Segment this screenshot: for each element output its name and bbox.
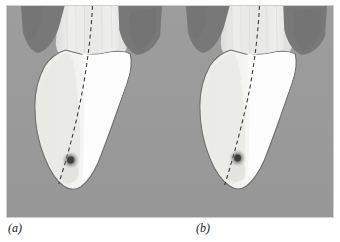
caption-panel-b: (b) — [196, 221, 210, 236]
figure-container: (a) (b) — [0, 0, 340, 242]
caption-row: (a) (b) — [0, 218, 340, 242]
panel-a-focal-spot-core — [67, 157, 74, 164]
panel-a[interactable] — [7, 6, 170, 217]
panel-b-graphic — [170, 6, 333, 217]
panel-pair — [6, 5, 334, 218]
caption-panel-a: (a) — [8, 221, 22, 236]
panel-b-focal-spot-core — [234, 155, 241, 162]
panel-a-graphic — [7, 6, 170, 217]
panel-b[interactable] — [170, 6, 333, 217]
